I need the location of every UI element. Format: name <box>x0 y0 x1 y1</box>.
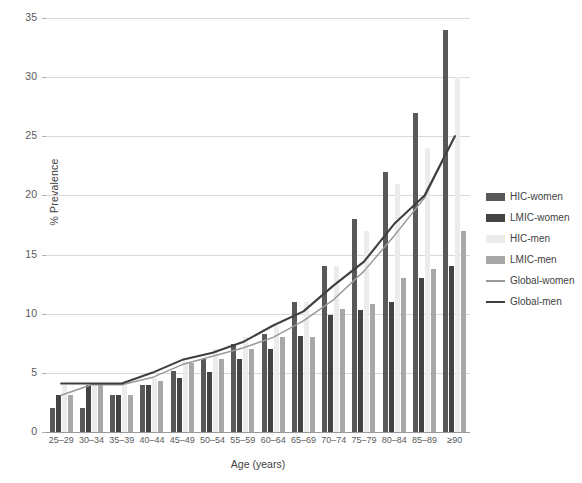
y-tick-30: 30 <box>9 71 37 82</box>
legend-label: LMIC-women <box>510 212 569 223</box>
y-tick-5: 5 <box>9 367 37 378</box>
x-tick-label: ≥90 <box>435 436 475 446</box>
y-tick-25: 25 <box>9 130 37 141</box>
legend-item: Global-women <box>486 270 582 291</box>
legend-item: HIC-women <box>486 186 582 207</box>
legend-label: HIC-women <box>510 191 563 202</box>
chart-legend: HIC-womenLMIC-womenHIC-menLMIC-menGlobal… <box>486 186 582 312</box>
legend-swatch-icon <box>486 235 505 243</box>
chart-figure: 05101520253035 % Prevalence 25–2930–3435… <box>0 0 582 483</box>
legend-swatch-icon <box>486 193 505 201</box>
legend-swatch-icon <box>486 214 505 222</box>
legend-item: HIC-men <box>486 228 582 249</box>
y-axis-tick-labels: 05101520253035 <box>0 0 46 483</box>
y-tick-35: 35 <box>9 12 37 23</box>
legend-swatch-icon <box>486 280 505 282</box>
y-tick-20: 20 <box>9 189 37 200</box>
line-global-men <box>61 136 455 383</box>
y-tick-10: 10 <box>9 308 37 319</box>
y-tick-0: 0 <box>9 426 37 437</box>
legend-swatch-icon <box>486 301 505 303</box>
plot-area <box>46 18 470 432</box>
line-series-overlay <box>46 18 470 432</box>
x-axis-tick-labels: 25–2930–3435–3940–4445–4950–5455–5960–64… <box>46 436 470 456</box>
y-tick-15: 15 <box>9 249 37 260</box>
legend-item: Global-men <box>486 291 582 312</box>
line-global-women <box>61 136 455 395</box>
legend-item: LMIC-men <box>486 249 582 270</box>
legend-label: Global-women <box>510 275 574 286</box>
legend-swatch-icon <box>486 256 505 264</box>
x-axis-title: Age (years) <box>46 458 470 470</box>
legend-label: HIC-men <box>510 233 550 244</box>
legend-label: Global-men <box>510 296 562 307</box>
legend-label: LMIC-men <box>510 254 557 265</box>
gridline-0 <box>46 432 470 433</box>
legend-item: LMIC-women <box>486 207 582 228</box>
